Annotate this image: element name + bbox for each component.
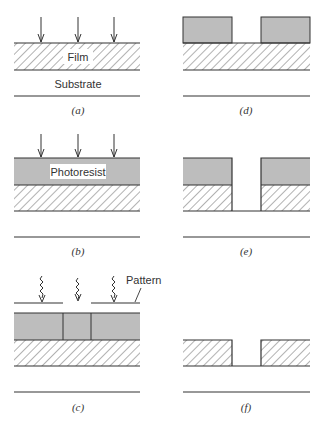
wavy-arrow-icon: [112, 276, 115, 298]
caption-d: (d): [240, 104, 253, 117]
photoresist-block: [183, 17, 232, 43]
light-rays: [39, 276, 117, 302]
film-layer: [14, 185, 140, 211]
film-layer: [183, 43, 310, 70]
caption-b: (b): [72, 245, 85, 258]
photolithography-diagram: Film Substrate (a) (d) Photoresist (b): [0, 0, 326, 422]
photoresist-block: [183, 158, 232, 185]
photoresist-block: [261, 158, 310, 185]
wavy-arrow-icon: [40, 276, 43, 298]
panel-c: Pattern (c): [14, 274, 161, 414]
photoresist-label: Photoresist: [50, 166, 105, 178]
film-label: Film: [68, 51, 89, 63]
exposure-arrows: [38, 17, 117, 42]
substrate-label: Substrate: [54, 78, 101, 90]
film-block: [183, 185, 232, 211]
panel-e: (e): [183, 158, 310, 258]
caption-e: (e): [240, 245, 253, 258]
photoresist-layer: [14, 313, 140, 340]
photoresist-block: [261, 17, 310, 43]
film-block: [261, 185, 310, 211]
film-block: [183, 340, 232, 366]
panel-f: (f): [183, 340, 310, 414]
panel-d: (d): [183, 17, 310, 117]
caption-a: (a): [72, 104, 85, 117]
exposure-arrows: [38, 134, 117, 157]
caption-c: (c): [72, 401, 85, 414]
pattern-leader-line: [135, 288, 141, 302]
wavy-arrow-icon: [76, 278, 79, 299]
caption-f: (f): [241, 401, 252, 414]
panel-b: Photoresist (b): [14, 134, 140, 258]
pattern-label: Pattern: [126, 274, 161, 286]
film-block: [261, 340, 310, 366]
film-layer: [14, 340, 140, 366]
panel-a: Film Substrate (a): [14, 17, 140, 117]
